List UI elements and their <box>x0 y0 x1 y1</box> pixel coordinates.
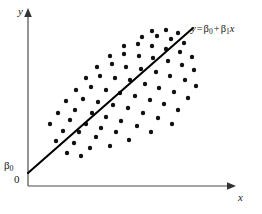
data-point <box>98 74 102 78</box>
x-axis-label: x <box>238 192 243 203</box>
data-point <box>89 85 93 89</box>
data-point <box>172 90 176 94</box>
data-point <box>182 41 186 45</box>
data-point <box>72 141 76 145</box>
data-point <box>168 74 172 78</box>
data-point <box>81 97 85 101</box>
data-point <box>84 76 88 80</box>
data-point <box>73 108 77 112</box>
data-point <box>170 122 174 126</box>
data-point <box>126 106 130 110</box>
data-point <box>186 96 190 100</box>
data-point <box>155 34 159 38</box>
data-point <box>141 111 145 115</box>
data-point <box>99 126 103 130</box>
equation-x-variable: x <box>230 23 235 34</box>
origin-label: 0 <box>14 174 20 185</box>
data-point <box>140 35 144 39</box>
data-point <box>124 65 128 69</box>
x-axis-arrowhead <box>227 182 236 190</box>
regression-scatter-figure: y x β0 0 y=β0+β1x <box>0 0 262 214</box>
data-point <box>122 44 126 48</box>
data-point <box>149 130 153 134</box>
data-point <box>79 154 83 158</box>
data-point <box>96 100 100 104</box>
data-point <box>166 59 170 63</box>
data-point <box>150 29 154 33</box>
data-point <box>135 124 139 128</box>
data-point <box>108 54 112 58</box>
data-point <box>113 76 117 80</box>
intercept-label: β0 <box>4 160 14 173</box>
data-point <box>110 62 114 66</box>
data-point <box>157 86 161 90</box>
data-point <box>180 63 184 67</box>
data-point <box>143 82 147 86</box>
data-point <box>64 99 68 103</box>
data-point <box>114 130 118 134</box>
data-point <box>104 115 108 119</box>
equation-equals: = <box>196 23 204 34</box>
equation-plus: + <box>213 23 221 34</box>
data-point <box>61 129 65 133</box>
data-point <box>95 65 99 69</box>
data-point <box>151 56 155 60</box>
data-point <box>133 94 137 98</box>
data-point <box>48 122 52 126</box>
scatter-points <box>48 28 198 158</box>
data-point <box>119 119 123 123</box>
data-point <box>178 50 182 54</box>
beta-subscript: 0 <box>10 164 14 173</box>
data-point <box>176 31 180 35</box>
equation-lhs: y <box>191 23 196 34</box>
data-point <box>94 135 98 139</box>
data-point <box>183 78 187 82</box>
data-point <box>150 44 154 48</box>
data-point <box>65 151 69 155</box>
data-point <box>68 118 72 122</box>
regression-line-group <box>28 28 193 173</box>
y-axis-arrowhead <box>24 8 32 17</box>
data-point <box>156 116 160 120</box>
data-point <box>108 144 112 148</box>
data-point <box>194 84 198 88</box>
data-point <box>104 88 108 92</box>
data-point <box>192 68 196 72</box>
data-point <box>56 111 60 115</box>
regression-line <box>28 28 193 173</box>
data-point <box>54 139 58 143</box>
data-point <box>162 102 166 106</box>
data-point <box>139 67 143 71</box>
data-point <box>154 70 158 74</box>
regression-equation-label: y=β0+β1x <box>191 24 234 36</box>
data-point <box>127 138 131 142</box>
data-point <box>74 88 78 92</box>
data-point <box>176 108 180 112</box>
data-point <box>88 146 92 150</box>
data-point <box>111 103 115 107</box>
data-point <box>190 55 194 59</box>
data-point <box>136 42 140 46</box>
data-point <box>137 54 141 58</box>
data-point <box>122 52 126 56</box>
data-point <box>164 28 168 32</box>
data-point <box>148 98 152 102</box>
data-point <box>169 37 173 41</box>
y-axis-label: y <box>18 6 23 17</box>
